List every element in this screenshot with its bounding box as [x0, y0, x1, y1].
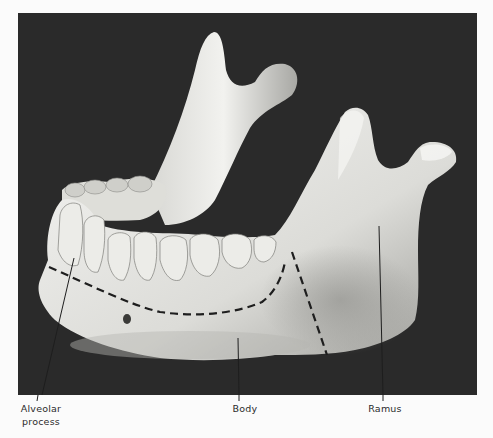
mandible-photograph: [18, 13, 477, 395]
label-ramus-text: Ramus: [366, 402, 404, 415]
label-body: Body: [228, 402, 262, 415]
label-alveolar-line1: Alveolar: [16, 402, 66, 415]
label-ramus: Ramus: [366, 402, 404, 415]
label-body-text: Body: [228, 402, 262, 415]
label-alveolar-process: Alveolar process: [16, 402, 66, 428]
mandible-figure: Alveolar process Body Ramus: [0, 0, 493, 438]
label-alveolar-line2: process: [16, 415, 66, 428]
